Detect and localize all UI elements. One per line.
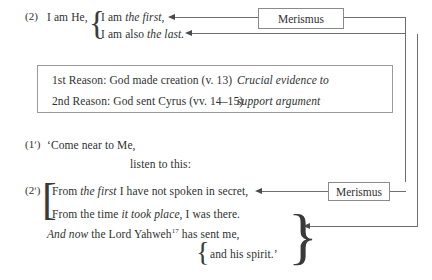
callout-merismus-bottom-label: Merismus — [336, 186, 382, 198]
verse-2p-line-c-italic: And now — [47, 228, 88, 240]
connector-rail-to-grouping-brace — [310, 226, 418, 227]
diagram-canvas: (2) I am He, { I am the first, I am also… — [0, 0, 432, 280]
verse-2-colon-a: I am the first, — [101, 11, 164, 23]
verse-2p-line-a-post: I have not spoken in secret, — [117, 185, 249, 197]
verse-2p-line-a-pre: From — [52, 185, 80, 197]
verse-2p-label: (2ʹ) — [25, 185, 41, 197]
verse-1p-label: (1ʹ) — [25, 139, 41, 151]
verse-2p-line-b: From the time it took place, I was there… — [52, 208, 240, 220]
and-his-spirit-brace: { — [196, 238, 209, 266]
reason-row-2-right: support argument — [237, 95, 320, 107]
verse-2p-line-a: From the first I have not spoken in secr… — [52, 185, 248, 197]
verse-2-colon-b-plain: I am also — [101, 28, 147, 40]
verse-2-colon-a-plain: I am — [101, 11, 125, 23]
arrow-to-verse-2p-line-a — [255, 188, 262, 194]
verse-2p-line-b-post: , I was there. — [180, 208, 240, 220]
arrow-to-verse-2-colon-b — [185, 30, 192, 36]
verse-2-colon-b-italic: the last. — [147, 28, 184, 40]
verse-2p-line-c: And now the Lord Yahweh17 has sent me, — [47, 228, 240, 240]
connector-merismus-top-right-stub — [344, 17, 406, 18]
verse-2p-footnote-marker: 17 — [172, 227, 179, 235]
verse-2p-line-b-pre: From the time — [52, 208, 121, 220]
reason-row-1-left: 1st Reason: God made creation (v. 13) — [52, 74, 232, 86]
arrow-to-verse-2-colon-a — [168, 14, 175, 20]
connector-merismus-top-to-first — [175, 17, 258, 18]
verse-2p-line-d: and his spirit.’ — [210, 248, 278, 260]
verse-2-colon-b: I am also the last. — [101, 28, 184, 40]
callout-merismus-bottom[interactable]: Merismus — [328, 182, 390, 201]
reason-row-2-left: 2nd Reason: God sent Cyrus (vv. 14–15) — [52, 95, 243, 107]
connector-merismus-bottom-to-2p-line-a — [262, 191, 328, 192]
callout-merismus-top[interactable]: Merismus — [258, 8, 344, 29]
rail-inner-vertical — [405, 34, 406, 182]
verse-2-colon-a-italic: the first, — [125, 11, 164, 23]
reason-row-1-right: Crucial evidence to — [237, 74, 329, 86]
verse-2-label: (2) — [25, 11, 38, 23]
verse-1p-line-b: listen to this: — [130, 158, 191, 170]
verse-2-stem: I am He, — [47, 11, 88, 23]
connector-merismus-top-to-last — [192, 33, 406, 34]
arrow-to-grouping-brace — [303, 223, 310, 229]
connector-merismus-top-vertical — [405, 17, 406, 34]
rail-outer-vertical — [417, 34, 418, 226]
connector-merismus-bottom-right-stub — [390, 191, 406, 192]
verse-2p-line-a-italic: the first — [80, 185, 116, 197]
callout-merismus-top-label: Merismus — [278, 13, 324, 25]
verse-2p-right-grouping-brace: } — [288, 205, 318, 267]
verse-1p-line-a: ‘Come near to Me, — [47, 139, 136, 151]
verse-2p-line-c-plain: the Lord Yahweh — [88, 228, 171, 240]
verse-2p-line-b-italic: it took place — [121, 208, 179, 220]
